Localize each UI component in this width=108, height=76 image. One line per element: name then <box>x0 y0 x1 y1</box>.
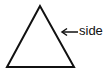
triangle-diagram: side <box>0 0 108 76</box>
left-arrow-icon <box>62 29 78 36</box>
triangle-shape <box>7 6 74 67</box>
side-label: side <box>79 23 103 39</box>
